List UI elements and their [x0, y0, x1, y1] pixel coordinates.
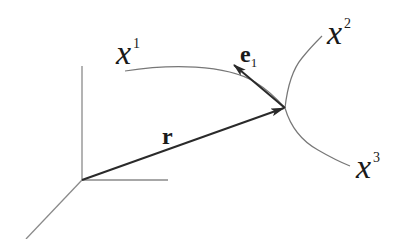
label-x3-base: x [356, 148, 371, 185]
label-x1-superscript: 1 [133, 36, 140, 51]
label-e1: e1 [240, 42, 257, 66]
label-r: r [162, 124, 173, 148]
label-e1-base: e [240, 41, 251, 67]
label-x1: x1 [116, 36, 138, 70]
label-x2: x2 [327, 16, 349, 50]
label-x2-superscript: 2 [344, 16, 351, 31]
label-e1-subscript: 1 [251, 55, 258, 70]
curve-x2 [285, 36, 322, 108]
label-r-text: r [162, 123, 173, 149]
label-x3: x3 [356, 150, 378, 184]
label-x2-base: x [327, 14, 342, 51]
basis-vector-e1 [234, 65, 285, 108]
curve-x3 [285, 108, 350, 166]
cartesian-axes [26, 66, 168, 239]
position-vector-r [82, 108, 284, 180]
label-x3-superscript: 3 [373, 150, 380, 165]
coordinate-curves [125, 36, 350, 166]
coordinate-diagram: x1 x2 x3 r e1 [0, 0, 410, 239]
depth-axis [26, 180, 82, 239]
label-x1-base: x [116, 34, 131, 71]
